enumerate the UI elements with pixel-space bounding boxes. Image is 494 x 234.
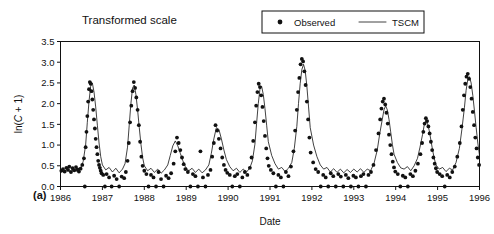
observed-point	[95, 152, 99, 156]
observed-point	[311, 161, 315, 165]
x-axis-label: Date	[259, 216, 281, 227]
observed-point	[127, 141, 131, 145]
observed-point	[296, 90, 300, 94]
observed-point	[263, 134, 267, 138]
observed-point	[470, 97, 474, 101]
observed-point	[101, 173, 105, 177]
observed-point	[297, 76, 301, 80]
observed-point	[267, 164, 271, 168]
observed-point	[240, 175, 244, 179]
observed-point	[433, 162, 437, 166]
observed-point	[468, 85, 472, 89]
observed-point	[248, 166, 252, 170]
observed-point	[319, 185, 323, 189]
observed-point	[147, 185, 151, 189]
observed-point	[403, 175, 407, 179]
observed-point	[210, 155, 214, 159]
observed-point	[450, 170, 454, 174]
observed-point	[186, 170, 190, 174]
observed-point	[222, 163, 226, 167]
observed-point	[257, 82, 261, 86]
observed-point	[411, 174, 415, 178]
observed-point	[262, 119, 266, 123]
observed-point	[94, 137, 98, 141]
observed-point	[301, 59, 305, 63]
observed-point	[67, 165, 71, 169]
observed-point	[266, 156, 270, 160]
observed-point	[63, 170, 67, 174]
observed-point	[162, 185, 166, 189]
observed-point	[142, 169, 146, 173]
observed-point	[199, 149, 203, 153]
observed-point	[380, 107, 384, 111]
observed-point	[413, 169, 417, 173]
observed-point	[79, 167, 83, 171]
observed-point	[339, 175, 343, 179]
legend-observed-dot-icon	[278, 20, 283, 25]
observed-point	[392, 166, 396, 170]
figure-panel: Transformed scale Observed TSCM 0.00.51.…	[0, 0, 494, 234]
observed-point	[398, 185, 402, 189]
observed-point	[475, 146, 479, 150]
observed-point	[84, 145, 88, 149]
observed-point	[463, 82, 467, 86]
observed-point	[396, 172, 400, 176]
observed-point	[292, 149, 296, 153]
observed-point	[141, 164, 145, 168]
observed-point	[105, 172, 109, 176]
observed-point	[129, 104, 133, 108]
observed-point	[188, 185, 192, 189]
observed-point	[243, 170, 247, 174]
x-tick-label: 1988	[134, 192, 155, 203]
observed-point	[440, 174, 444, 178]
observed-point	[122, 176, 126, 180]
x-tick-label: 1995	[427, 192, 448, 203]
y-tick-label: 1.5	[41, 119, 54, 130]
y-tick-label: 3.0	[41, 57, 54, 68]
observed-point	[467, 77, 471, 81]
observed-point	[201, 175, 205, 179]
observed-point	[284, 170, 288, 174]
observed-point	[96, 159, 100, 163]
observed-point	[369, 170, 373, 174]
observed-point	[378, 117, 382, 121]
observed-point	[341, 185, 345, 189]
observed-point	[196, 185, 200, 189]
observed-point	[391, 160, 395, 164]
observed-point	[331, 174, 335, 178]
observed-point	[287, 174, 291, 178]
observed-point	[349, 185, 353, 189]
observed-point	[364, 185, 368, 189]
y-axis-label: ln(C + 1)	[13, 95, 24, 134]
observed-point	[85, 130, 89, 134]
observed-point	[83, 185, 87, 189]
panel-label: (a)	[33, 189, 47, 201]
observed-point	[344, 173, 348, 177]
observed-point	[432, 156, 436, 160]
observed-point	[314, 167, 318, 171]
x-tick-label: 1993	[343, 192, 364, 203]
observed-point	[183, 167, 187, 171]
observed-point	[425, 119, 429, 123]
x-tick-label: 1987	[92, 192, 113, 203]
observed-point	[274, 185, 278, 189]
observed-point	[180, 156, 184, 160]
observed-point	[80, 163, 84, 167]
observed-point	[256, 90, 260, 94]
observed-point	[212, 141, 216, 145]
observed-point	[157, 170, 161, 174]
observed-point	[259, 93, 263, 97]
x-axis-ticks: 1986198719881989199019911992199319941995…	[50, 187, 490, 203]
observed-point	[269, 168, 273, 172]
observed-point	[144, 172, 148, 176]
observed-point	[134, 96, 138, 100]
observed-point	[279, 175, 283, 179]
observed-point	[85, 114, 89, 118]
observed-point	[95, 145, 99, 149]
observed-point	[386, 122, 390, 126]
observed-point	[112, 174, 116, 178]
observed-point	[302, 69, 306, 73]
observed-point	[372, 163, 376, 167]
observed-point	[282, 185, 286, 189]
observed-point	[220, 156, 224, 160]
